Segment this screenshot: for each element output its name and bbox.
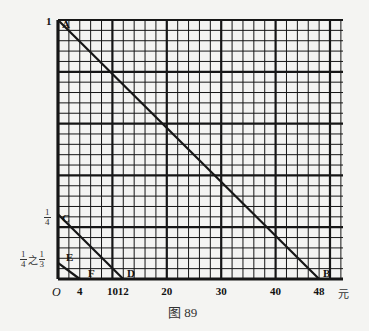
figure-caption: 图 89 [168,302,197,321]
y-label-quarter: 1 4 [44,208,51,227]
x-unit-label: 元 [338,285,349,301]
point-label-d: D [127,268,135,279]
y-label-range: 1 4 之 1 3 [20,250,45,269]
x-tick-label: 40 [270,285,281,297]
point-label-e: E [66,252,73,263]
point-label-c: C [62,213,70,224]
x-tick-label: 10 [107,285,118,297]
coordinate-grid [0,0,369,331]
point-label-a: A [62,19,70,30]
diagram-figure: 1 1 4 1 4 之 1 3 A B C D E F O 4101220304… [0,0,369,331]
point-label-b: B [323,268,330,279]
x-tick-label: 12 [118,285,129,297]
origin-label: O [52,285,61,300]
y-tick-one: 1 [46,16,52,27]
point-label-f: F [88,268,95,279]
x-tick-label: 4 [77,285,83,297]
x-tick-label: 20 [161,285,172,297]
x-tick-label: 48 [314,285,325,297]
x-tick-label: 30 [216,285,227,297]
